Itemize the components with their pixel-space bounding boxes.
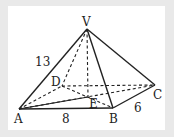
edge-AB (19, 108, 113, 109)
label-A: A (13, 112, 23, 126)
edge-VC (87, 29, 155, 85)
label-B: B (109, 112, 118, 126)
label-D: D (51, 75, 61, 89)
label-V: V (81, 15, 91, 29)
measure-BC: 6 (134, 101, 142, 115)
edge-DC (62, 85, 155, 86)
edge-VE (87, 29, 88, 97)
pyramid-diagram: V A B C D E 13 8 6 (0, 0, 174, 137)
measure-AB: 8 (62, 112, 70, 126)
label-E: E (89, 97, 98, 111)
label-C: C (153, 88, 162, 102)
edge-VA (19, 29, 87, 109)
measure-VA: 13 (35, 55, 50, 69)
edge-VD (62, 29, 87, 86)
